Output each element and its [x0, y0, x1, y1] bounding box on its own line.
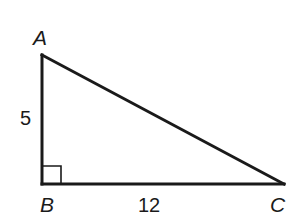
side-label-bc: 12	[138, 194, 160, 216]
vertex-label-a: A	[31, 26, 47, 49]
vertex-label-b: B	[40, 193, 54, 216]
right-triangle-diagram: A B C 5 12	[0, 0, 299, 223]
side-ac-hypotenuse	[42, 55, 284, 184]
triangle-edges	[42, 55, 284, 184]
vertex-label-c: C	[270, 193, 286, 216]
right-angle-marker	[42, 166, 61, 184]
side-label-ab: 5	[20, 107, 31, 129]
